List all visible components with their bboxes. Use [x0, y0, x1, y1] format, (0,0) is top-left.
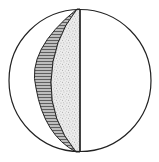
- diagram: [0, 0, 159, 162]
- sphere-diagram: [0, 0, 159, 162]
